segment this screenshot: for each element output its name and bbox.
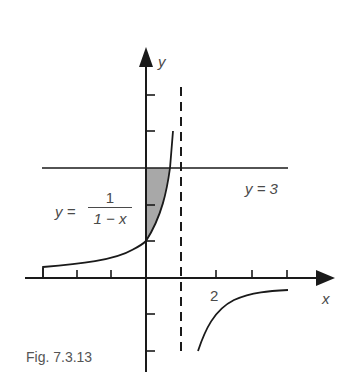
x-axis-arrowhead	[316, 270, 335, 286]
figure-canvas	[0, 0, 349, 385]
y-axis-arrowhead	[139, 47, 153, 67]
y-axis-label: y	[158, 54, 166, 69]
curve-label-fraction: 1 1 − x	[88, 190, 132, 226]
fraction-bar	[88, 207, 132, 208]
curve-label-lhs: y =	[55, 204, 75, 219]
fraction-denominator: 1 − x	[88, 211, 132, 226]
line-label-y-equals-3: y = 3	[245, 181, 278, 196]
x-ticks	[43, 268, 287, 278]
x-tick-label-2: 2	[210, 288, 218, 303]
figure-caption: Fig. 7.3.13	[26, 350, 92, 364]
fraction-numerator: 1	[88, 190, 132, 205]
x-axis-label: x	[322, 291, 330, 306]
